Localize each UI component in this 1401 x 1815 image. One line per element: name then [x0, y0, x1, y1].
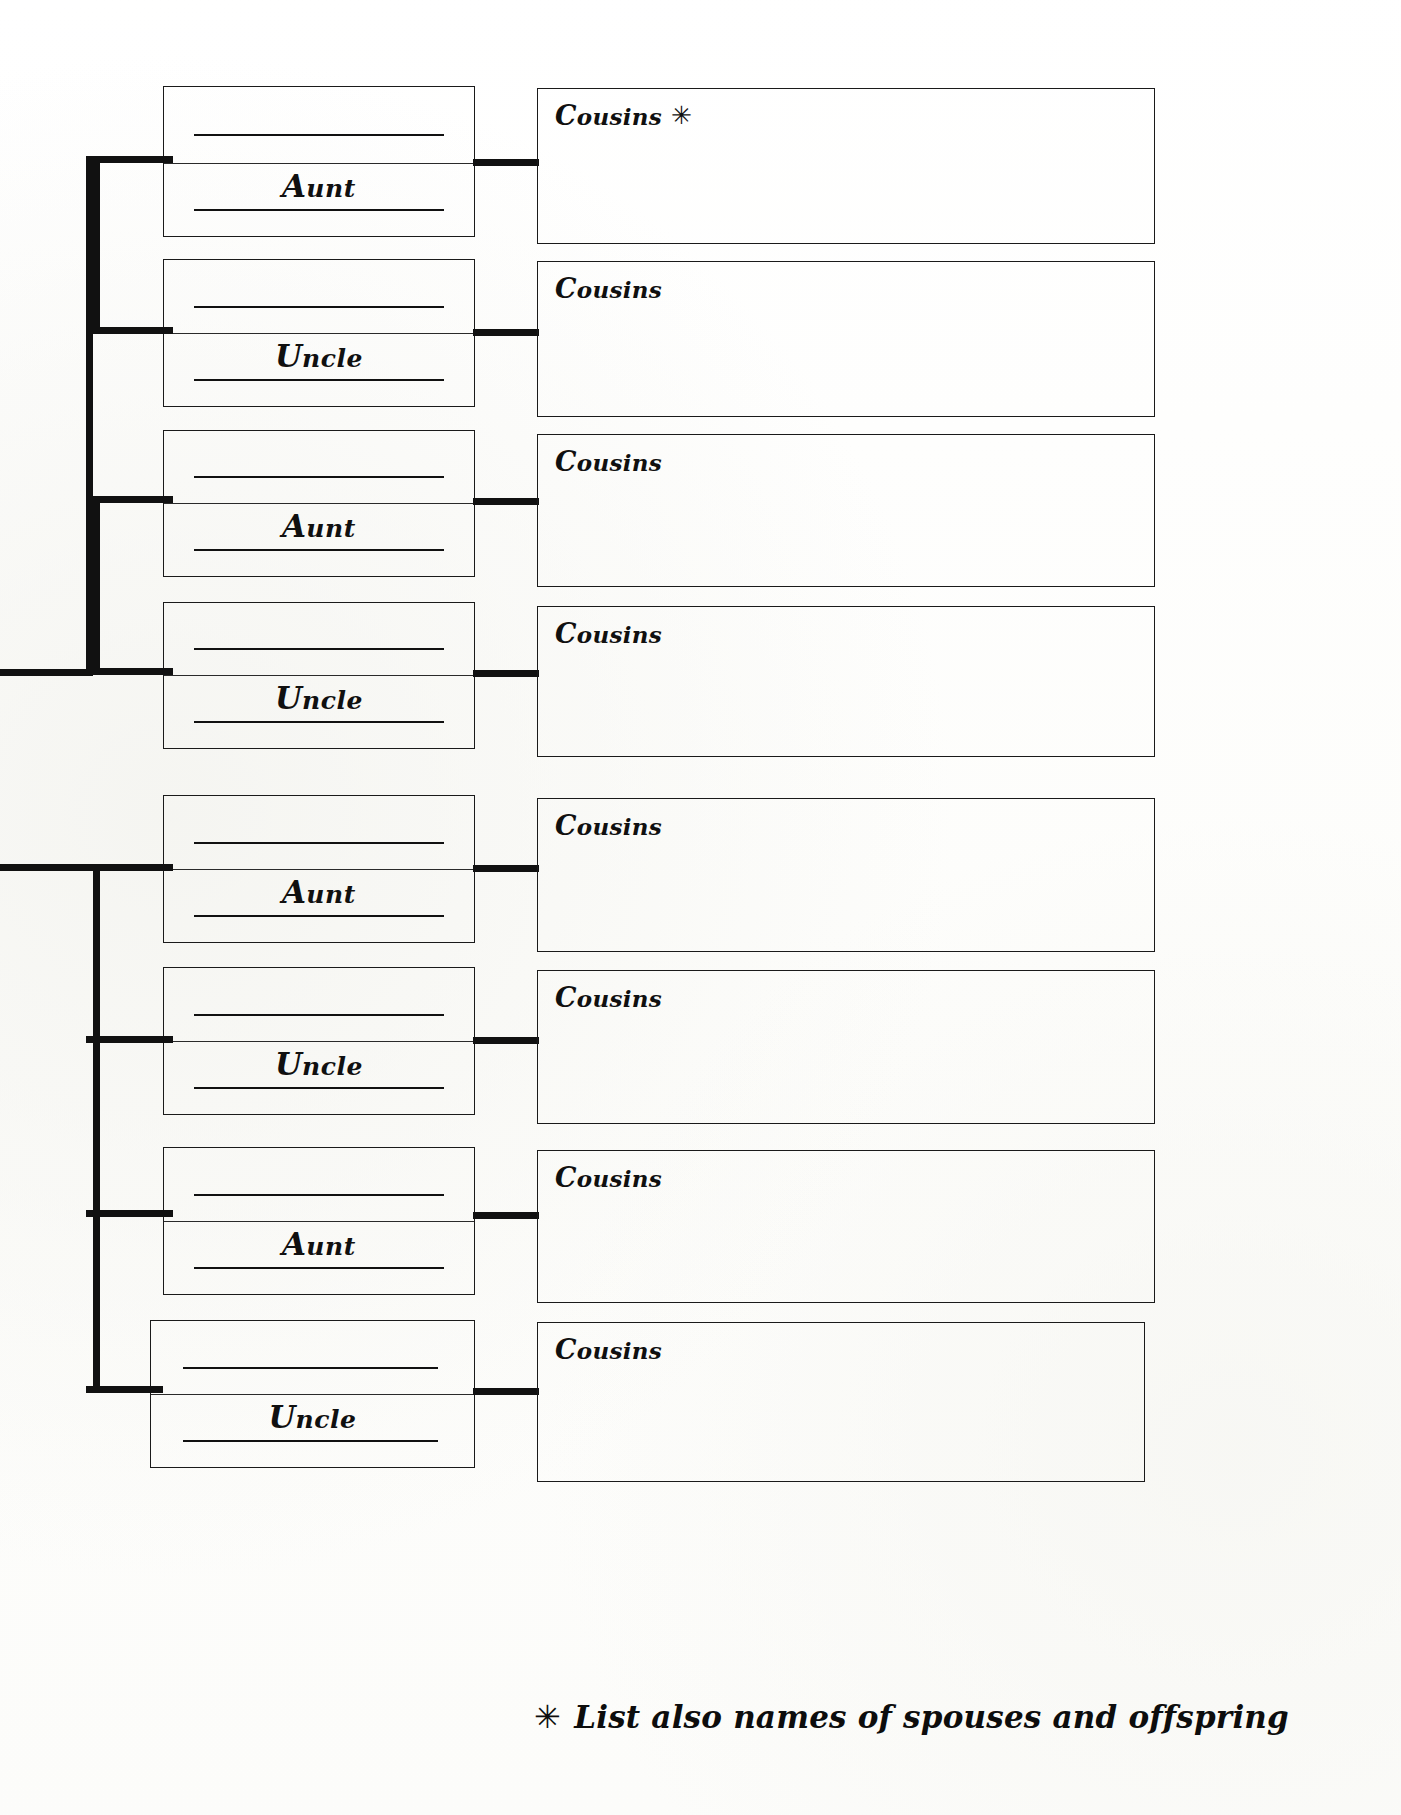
- cousins-box-8[interactable]: Cousins: [537, 1322, 1145, 1482]
- cousins-box-2[interactable]: Cousins: [537, 261, 1155, 417]
- footnote-text: List also names of spouses and offspring: [574, 1699, 1289, 1735]
- write-line-bottom[interactable]: [194, 379, 444, 381]
- relative-box-divider: [164, 503, 474, 504]
- connector-stub-3: [473, 498, 539, 505]
- cousins-box-4[interactable]: Cousins: [537, 606, 1155, 757]
- cousins-box-7[interactable]: Cousins: [537, 1150, 1155, 1303]
- group-1-main-spine: [86, 156, 93, 676]
- bracket-arm-1: [93, 156, 173, 163]
- bracket-arm-2: [93, 327, 173, 334]
- cousins-box-1[interactable]: Cousins✳: [537, 88, 1155, 244]
- cousins-heading-rest: ousins: [577, 276, 662, 303]
- relative-label-capital: A: [282, 1226, 306, 1262]
- write-line-top[interactable]: [194, 842, 444, 844]
- relative-box-7[interactable]: Aunt: [163, 1147, 475, 1295]
- worksheet-sheet: Aunt Cousins✳ Uncle Cousins Aunt Cousins: [0, 0, 1401, 1815]
- cousins-heading-2: Cousins: [555, 273, 662, 304]
- cousins-heading-rest: ousins: [577, 621, 662, 648]
- cousins-heading-rest: ousins: [577, 985, 662, 1012]
- relative-label-2: Uncle: [164, 338, 474, 374]
- write-line-top[interactable]: [194, 476, 444, 478]
- connector-stub-7: [473, 1212, 539, 1219]
- connector-stub-2: [473, 329, 539, 336]
- cousins-heading-1: Cousins✳: [555, 100, 692, 131]
- group-1-trunk: [0, 669, 93, 676]
- cousins-heading-capital: C: [555, 273, 577, 304]
- cousins-box-5[interactable]: Cousins: [537, 798, 1155, 952]
- relative-box-4[interactable]: Uncle: [163, 602, 475, 749]
- relative-box-divider: [164, 333, 474, 334]
- write-line-bottom[interactable]: [194, 721, 444, 723]
- relative-box-2[interactable]: Uncle: [163, 259, 475, 407]
- cousins-box-6[interactable]: Cousins: [537, 970, 1155, 1124]
- write-line-top[interactable]: [194, 134, 444, 136]
- relative-box-1[interactable]: Aunt: [163, 86, 475, 237]
- cousins-heading-rest: ousins: [577, 1337, 662, 1364]
- cousins-heading-5: Cousins: [555, 810, 662, 841]
- cousins-heading-6: Cousins: [555, 982, 662, 1013]
- relative-label-capital: U: [275, 680, 302, 716]
- bracket-arm-4: [93, 668, 173, 675]
- relative-label-rest: unt: [306, 880, 356, 909]
- connector-stub-5: [473, 865, 539, 872]
- cousins-box-3[interactable]: Cousins: [537, 434, 1155, 587]
- relative-label-capital: U: [275, 1046, 302, 1082]
- cousins-heading-7: Cousins: [555, 1162, 662, 1193]
- cousins-heading-capital: C: [555, 100, 577, 131]
- relative-label-rest: unt: [306, 174, 356, 203]
- group-2-trunk: [0, 864, 96, 871]
- write-line-bottom[interactable]: [194, 1087, 444, 1089]
- write-line-bottom[interactable]: [194, 915, 444, 917]
- relative-box-divider: [164, 869, 474, 870]
- relative-box-5[interactable]: Aunt: [163, 795, 475, 943]
- relative-label-4: Uncle: [164, 680, 474, 716]
- footnote-star-icon: ✳: [662, 101, 692, 130]
- relative-box-divider: [164, 675, 474, 676]
- cousins-heading-rest: ousins: [577, 1165, 662, 1192]
- relative-label-7: Aunt: [164, 1226, 474, 1262]
- relative-label-capital: U: [268, 1399, 295, 1435]
- relative-label-capital: U: [275, 338, 302, 374]
- cousins-heading-8: Cousins: [555, 1334, 662, 1365]
- cousins-heading-4: Cousins: [555, 618, 662, 649]
- bracket-spine-pair-b: [93, 496, 100, 675]
- write-line-bottom[interactable]: [183, 1440, 438, 1442]
- cousins-heading-rest: ousins: [577, 449, 662, 476]
- write-line-bottom[interactable]: [194, 1267, 444, 1269]
- relative-label-1: Aunt: [164, 168, 474, 204]
- relative-box-6[interactable]: Uncle: [163, 967, 475, 1115]
- relative-label-rest: unt: [306, 514, 356, 543]
- write-line-bottom[interactable]: [194, 549, 444, 551]
- write-line-top[interactable]: [194, 1014, 444, 1016]
- relative-box-divider: [164, 1041, 474, 1042]
- write-line-top[interactable]: [194, 648, 444, 650]
- relative-label-capital: A: [282, 508, 306, 544]
- relative-box-divider: [151, 1394, 474, 1395]
- write-line-top[interactable]: [194, 1194, 444, 1196]
- bracket-spine-pair-a: [93, 156, 100, 334]
- relative-label-6: Uncle: [164, 1046, 474, 1082]
- relative-label-rest: ncle: [302, 344, 363, 373]
- relative-label-8: Uncle: [151, 1399, 474, 1435]
- cousins-heading-capital: C: [555, 446, 577, 477]
- cousins-heading-rest: ousins: [577, 813, 662, 840]
- relative-label-rest: ncle: [295, 1405, 356, 1434]
- relative-box-3[interactable]: Aunt: [163, 430, 475, 577]
- relative-box-8[interactable]: Uncle: [150, 1320, 475, 1468]
- write-line-top[interactable]: [183, 1367, 438, 1369]
- group-2-main-spine: [93, 864, 100, 1392]
- footnote-star-icon: ✳: [534, 1698, 574, 1736]
- cousins-heading-capital: C: [555, 1162, 577, 1193]
- cousins-heading-capital: C: [555, 810, 577, 841]
- cousins-heading-rest: ousins: [577, 103, 662, 130]
- connector-stub-1: [473, 159, 539, 166]
- relative-label-capital: A: [282, 874, 306, 910]
- relative-box-divider: [164, 163, 474, 164]
- relative-box-divider: [164, 1221, 474, 1222]
- relative-label-rest: ncle: [302, 686, 363, 715]
- write-line-top[interactable]: [194, 306, 444, 308]
- write-line-bottom[interactable]: [194, 209, 444, 211]
- relative-label-rest: ncle: [302, 1052, 363, 1081]
- connector-stub-6: [473, 1037, 539, 1044]
- connector-stub-8: [473, 1388, 539, 1395]
